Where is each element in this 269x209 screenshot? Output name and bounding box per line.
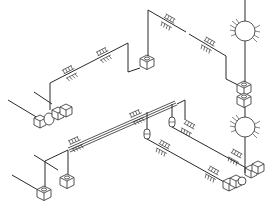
- upper-pipe-run: [50, 0, 260, 110]
- left-valve-cluster: [8, 92, 72, 128]
- piping-diagram: [0, 0, 269, 209]
